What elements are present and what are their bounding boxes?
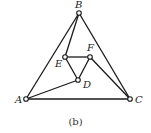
figure-caption: (b) bbox=[68, 116, 82, 127]
edge-BE bbox=[65, 13, 79, 57]
vertex-D bbox=[76, 78, 81, 83]
edges bbox=[26, 13, 130, 99]
edge-AB bbox=[26, 13, 79, 99]
graph-diagram: ABCDEF (b) bbox=[0, 0, 151, 133]
vertex-label-E: E bbox=[54, 58, 63, 69]
vertices bbox=[24, 11, 133, 102]
vertex-E bbox=[63, 55, 68, 60]
vertex-label-B: B bbox=[74, 0, 82, 10]
vertex-label-A: A bbox=[14, 94, 22, 105]
edge-ED bbox=[65, 57, 78, 80]
vertex-A bbox=[24, 97, 29, 102]
vertex-label-C: C bbox=[135, 94, 143, 105]
edge-DA bbox=[26, 80, 78, 99]
vertex-B bbox=[77, 11, 82, 16]
vertex-C bbox=[128, 97, 133, 102]
edge-FC bbox=[90, 57, 130, 99]
vertex-F bbox=[88, 55, 93, 60]
vertex-label-F: F bbox=[86, 42, 95, 53]
edge-FD bbox=[78, 57, 90, 80]
vertex-label-D: D bbox=[82, 79, 91, 90]
